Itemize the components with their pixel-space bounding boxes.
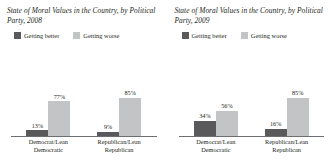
legend-entry-getting-worse: Getting worse: [241, 32, 287, 39]
bar-value-better: 13%: [32, 122, 43, 130]
bar-wrap-worse: 85%: [287, 84, 309, 136]
x-axis-line: [179, 136, 325, 137]
bar-wrap-better: 13%: [26, 84, 48, 136]
bars: 13% 77%: [17, 84, 79, 136]
bars: 16% 85%: [256, 84, 318, 136]
plot-area: 34% 56% 16%: [175, 41, 329, 162]
bar-value-worse: 77%: [54, 93, 65, 101]
bar-value-worse: 85%: [124, 89, 135, 97]
legend-swatch-better-icon: [182, 32, 189, 39]
category-label-democrat: Democrat/Lean Democratic: [185, 138, 247, 160]
legend-label-worse: Getting worse: [251, 32, 287, 39]
bars: 9% 85%: [88, 84, 150, 136]
category-labels: Democrat/Lean Democratic Republican/Lean…: [13, 138, 155, 160]
category-label-line1: Republican/Lean: [88, 138, 150, 146]
legend-label-better: Getting better: [24, 32, 59, 39]
category-label-democrat: Democrat/Lean Democratic: [17, 138, 79, 160]
chart-panel-2008: State of Moral Values in the Country, by…: [0, 0, 168, 162]
chart-page: State of Moral Values in the Country, by…: [0, 0, 335, 162]
bar-value-better: 9%: [104, 123, 112, 131]
category-label-line1: Democrat/Lean: [185, 138, 247, 146]
category-label-republican: Republican/Lean Republican: [88, 138, 150, 160]
legend-swatch-better-icon: [14, 32, 21, 39]
legend: Getting better Getting worse: [182, 32, 329, 39]
category-label-line2: Democratic: [17, 146, 79, 154]
bar-worse: [287, 98, 309, 136]
legend-entry-getting-worse: Getting worse: [73, 32, 119, 39]
plot-area: 13% 77% 9%: [7, 41, 161, 162]
bar-wrap-better: 34%: [194, 84, 216, 136]
category-label-republican: Republican/Lean Republican: [256, 138, 318, 160]
bar-wrap-worse: 85%: [119, 84, 141, 136]
bar-value-better: 16%: [270, 120, 281, 128]
bars: 34% 56%: [185, 84, 247, 136]
bar-worse: [216, 111, 238, 136]
bar-wrap-worse: 77%: [48, 84, 70, 136]
bar-better: [194, 121, 216, 136]
category-label-line1: Democrat/Lean: [17, 138, 79, 146]
bar-groups: 34% 56% 16%: [181, 84, 323, 136]
bar-worse: [48, 101, 70, 136]
legend-swatch-worse-icon: [241, 32, 248, 39]
legend-label-better: Getting better: [192, 32, 227, 39]
bar-value-worse: 56%: [221, 102, 232, 110]
bar-group-democrat: 13% 77%: [17, 84, 79, 136]
legend-entry-getting-better: Getting better: [182, 32, 227, 39]
bar-better: [265, 129, 287, 136]
bar-wrap-better: 16%: [265, 84, 287, 136]
bar-group-democrat: 34% 56%: [185, 84, 247, 136]
category-label-line2: Democratic: [185, 146, 247, 154]
bar-group-republican: 9% 85%: [88, 84, 150, 136]
bar-value-worse: 85%: [292, 89, 303, 97]
bar-value-better: 34%: [199, 112, 210, 120]
legend: Getting better Getting worse: [14, 32, 161, 39]
category-label-line2: Republican: [256, 146, 318, 154]
x-axis-line: [11, 136, 157, 137]
bar-wrap-worse: 56%: [216, 84, 238, 136]
category-labels: Democrat/Lean Democratic Republican/Lean…: [181, 138, 323, 160]
legend-swatch-worse-icon: [73, 32, 80, 39]
category-label-line2: Republican: [88, 146, 150, 154]
bar-group-republican: 16% 85%: [256, 84, 318, 136]
legend-label-worse: Getting worse: [83, 32, 119, 39]
category-label-line1: Republican/Lean: [256, 138, 318, 146]
bar-wrap-better: 9%: [97, 84, 119, 136]
legend-entry-getting-better: Getting better: [14, 32, 59, 39]
bar-worse: [119, 98, 141, 136]
panel-title: State of Moral Values in the Country, by…: [7, 6, 159, 26]
panel-title: State of Moral Values in the Country, by…: [175, 6, 327, 26]
chart-panel-2009: State of Moral Values in the Country, by…: [168, 0, 335, 162]
bar-groups: 13% 77% 9%: [13, 84, 155, 136]
